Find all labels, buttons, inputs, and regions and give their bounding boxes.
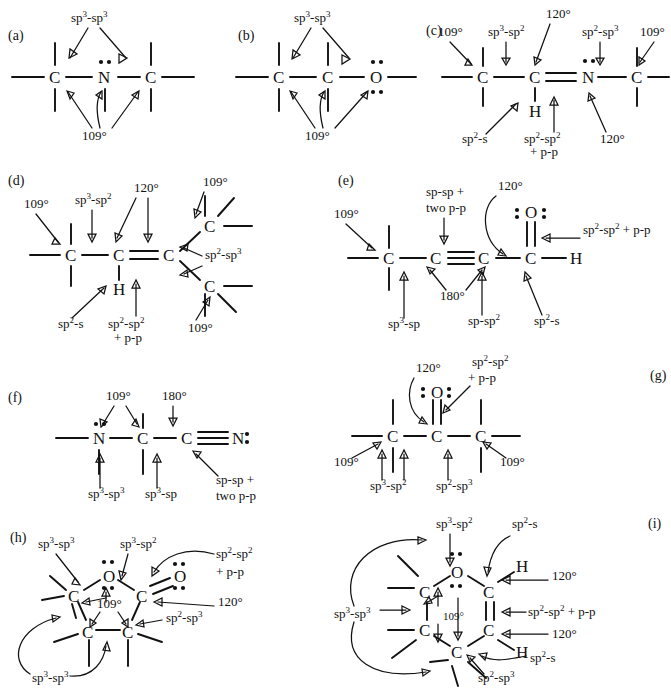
atom-carbon-3: C xyxy=(163,246,174,265)
lone-pair-nitrogen-icon xyxy=(99,60,111,64)
panel-e-label-109: 109° xyxy=(334,206,359,221)
atom-carbon-3: C xyxy=(475,427,486,446)
atom-oxygen: O xyxy=(525,203,537,222)
atom-nitrogen-1: N xyxy=(93,429,105,448)
panel-i-label-sp2s-bottom: sp2-s xyxy=(530,649,555,665)
panel-d-tag: (d) xyxy=(8,173,25,189)
panel-e-label-sp2sp2-pp: sp2-sp2 + p-p xyxy=(583,221,651,237)
panel-f-label-spsp: sp-sp + xyxy=(216,472,254,487)
atom-carbon-up: C xyxy=(204,217,215,236)
lone-pair-nitrogen-icon xyxy=(583,59,595,63)
panel-f-label-two-pp: two p-p xyxy=(216,488,256,503)
panel-a-label-109: 109° xyxy=(82,128,107,143)
panel-g-label-sp2sp2: sp2-sp2 xyxy=(472,353,508,369)
panel-i-label-sp3sp3: sp3-sp3 xyxy=(334,605,371,621)
atom-hydrogen-top: H xyxy=(516,557,528,576)
panel-g-label-sp3sp2: sp3-sp2 xyxy=(370,477,406,493)
panel-c-label-120-bottom: 120° xyxy=(600,131,625,146)
atom-carbon-bottom: C xyxy=(451,643,462,662)
atom-hydrogen: H xyxy=(529,102,541,121)
panel-e-label-120: 120° xyxy=(498,178,523,193)
panel-c-label-109-right: 109° xyxy=(640,24,665,39)
panel-f-label-109: 109° xyxy=(106,388,131,403)
atom-hydrogen: H xyxy=(570,249,582,268)
panel-c-label-120-top: 120° xyxy=(546,6,571,21)
panel-e-label-spsp2: sp-sp2 xyxy=(468,312,500,328)
panel-b-bottom-arrows xyxy=(290,91,368,128)
panel-d: (d) C C C C C H 109° sp3-sp2 120° 109° s… xyxy=(0,160,340,355)
panel-g: (g) C C C O 120° sp2-sp2 + p-p 109° 109°… xyxy=(330,358,671,528)
atom-hydrogen-bottom: H xyxy=(516,643,528,662)
panel-i-label-120-bottom: 120° xyxy=(552,626,577,641)
panel-f-label-180: 180° xyxy=(162,388,187,403)
panel-f-tag: (f) xyxy=(8,390,22,406)
atom-nitrogen: N xyxy=(582,68,594,87)
panel-h-tag: (h) xyxy=(10,530,27,546)
panel-e-label-sp2s: sp2-s xyxy=(534,312,559,328)
panel-e-label-spsp: sp-sp + xyxy=(426,184,464,199)
panel-d-label-109-left: 109° xyxy=(24,196,49,211)
atom-carbon-right: C xyxy=(145,68,156,87)
panel-a-tag: (a) xyxy=(8,28,24,44)
panel-g-tag: (g) xyxy=(650,368,667,384)
atom-carbon-1: C xyxy=(383,249,394,268)
panel-c-top-arrows xyxy=(450,24,654,65)
lone-pair-nitrogen-2-icon xyxy=(245,432,249,444)
panel-d-label-sp2sp2: sp2-sp2 xyxy=(108,315,144,331)
panel-i: (i) O C C C C C H H sp3-sp2 sp2-s 120 xyxy=(330,510,671,689)
panel-f-label-sp3sp: sp3-sp xyxy=(145,485,177,501)
panel-c-label-sp3sp2: sp3-sp2 xyxy=(488,23,524,39)
panel-b-label-109: 109° xyxy=(305,128,330,143)
panel-a-label-sp3sp3: sp-spsp3-sp3 xyxy=(71,9,108,25)
atom-carbon-ul: C xyxy=(419,583,430,602)
panel-i-tag: (i) xyxy=(648,516,662,532)
atom-carbon-3: C xyxy=(478,249,489,268)
atom-carbon-1: C xyxy=(477,68,488,87)
panel-i-label-sp2s-top: sp2-s xyxy=(512,515,537,531)
panel-e-label-two-pp: two p-p xyxy=(426,200,466,215)
panel-h-label-sp3sp2: sp3-sp2 xyxy=(120,535,156,551)
atom-carbon-right: C xyxy=(136,587,147,606)
panel-c-label-sp2sp3: sp2-sp3 xyxy=(582,23,619,39)
panel-e-tag: (e) xyxy=(338,173,354,189)
panel-h-label-109: 109° xyxy=(97,596,122,611)
panel-d-label-sp2s: sp2-s xyxy=(58,315,83,331)
atom-oxygen: O xyxy=(370,68,382,87)
panel-d-label-sp3sp2: sp3-sp2 xyxy=(75,191,111,207)
atom-carbon-4: C xyxy=(525,249,536,268)
panel-h-label-sp2sp3: sp2-sp3 xyxy=(166,609,203,625)
atom-carbon-3: C xyxy=(631,68,642,87)
atom-oxygen-ring: O xyxy=(103,567,115,586)
panel-f: (f) N C C N 109° 180° sp3-sp3 sp3-sp sp-… xyxy=(0,360,340,525)
panel-f-label-sp3sp3: sp3-sp3 xyxy=(88,485,125,501)
panel-i-label-sp2sp2-pp: sp2-sp2 + p-p xyxy=(528,603,596,619)
panel-d-label-120: 120° xyxy=(134,180,159,195)
atom-carbon-2: C xyxy=(430,249,441,268)
panel-h-label-plus-pp: + p-p xyxy=(216,564,244,579)
atom-carbon-2: C xyxy=(181,429,192,448)
atom-carbon-left: C xyxy=(68,587,79,606)
atom-carbon-left: C xyxy=(273,68,284,87)
atom-carbon-1: C xyxy=(387,427,398,446)
atom-carbon-mid: C xyxy=(322,68,333,87)
panel-e-label-180: 180° xyxy=(440,288,465,303)
atom-carbon-2: C xyxy=(529,68,540,87)
panel-i-label-109: 109° xyxy=(443,610,464,622)
panel-c-label-sp2s: sp2-s xyxy=(462,130,487,146)
panel-f-arrows xyxy=(96,406,218,488)
panel-d-label-sp2sp3: sp2-sp3 xyxy=(205,246,242,262)
atom-hydrogen: H xyxy=(113,280,125,299)
panel-d-label-109-bottomright: 109° xyxy=(188,320,213,335)
atom-carbon-1: C xyxy=(65,246,76,265)
panel-a: (a) C N C sp-spsp3-sp3 109° xyxy=(0,0,230,152)
atom-carbon-left: C xyxy=(49,68,60,87)
atom-carbon-ur: C xyxy=(483,583,494,602)
panel-b-top-arrows xyxy=(292,28,350,64)
atom-carbon-down: C xyxy=(204,277,215,296)
panel-i-label-120-top: 120° xyxy=(552,568,577,583)
atom-carbon-ll: C xyxy=(419,621,430,640)
atom-nitrogen: N xyxy=(98,68,110,87)
panel-c: (c) C C N C H 109° sp3-sp2 120° sp2-sp3 … xyxy=(424,0,671,155)
panel-g-label-plus-pp: + p-p xyxy=(468,370,496,385)
panel-g-label-120: 120° xyxy=(416,360,441,375)
